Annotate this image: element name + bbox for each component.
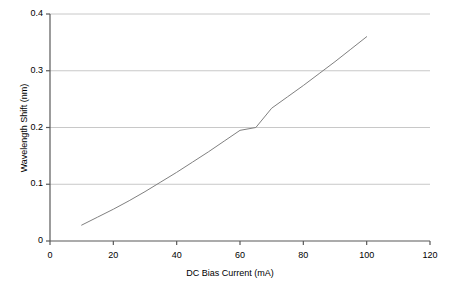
y-tick-label: 0.4 — [30, 9, 43, 18]
x-tick-label: 80 — [283, 251, 323, 260]
x-tick-label: 20 — [93, 251, 133, 260]
chart-container: 00.10.20.30.4 020406080100120 Wavelength… — [0, 0, 460, 290]
x-tick-label: 0 — [30, 251, 70, 260]
gridlines — [50, 14, 430, 184]
x-tick-label: 100 — [347, 251, 387, 260]
y-axis-title: Wavelength Shift (nm) — [20, 83, 29, 172]
series-line — [82, 37, 367, 225]
x-tick-label: 40 — [157, 251, 197, 260]
y-tick-label: 0.2 — [30, 123, 43, 132]
y-tick-label: 0.3 — [30, 66, 43, 75]
x-axis-ticks — [50, 241, 430, 245]
x-axis-title: DC Bias Current (mA) — [0, 269, 460, 278]
y-tick-label: 0 — [38, 236, 43, 245]
x-tick-label: 120 — [410, 251, 450, 260]
plot-area — [0, 0, 460, 290]
y-tick-label: 0.1 — [30, 179, 43, 188]
data-series-line — [82, 37, 367, 225]
x-tick-label: 60 — [220, 251, 260, 260]
